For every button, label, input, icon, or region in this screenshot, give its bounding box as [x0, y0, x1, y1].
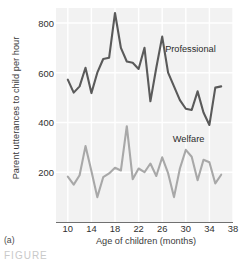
gridlines	[56, 8, 233, 222]
y-tick-labels: 200400600800	[26, 0, 54, 258]
panel-letter: (a)	[4, 235, 15, 245]
x-tick-14: 14	[86, 223, 96, 234]
x-axis-title: Age of children (months)	[56, 236, 236, 246]
x-tick-34: 34	[204, 223, 214, 234]
y-tick-200: 200	[24, 167, 54, 178]
series-label-professional: Professional	[165, 44, 216, 54]
series-label-welfare: Welfare	[173, 134, 205, 144]
y-axis-title: Parent utterances to child per hour	[11, 8, 21, 208]
y-tick-400: 400	[24, 117, 54, 128]
y-tick-800: 800	[24, 17, 54, 28]
x-tick-26: 26	[157, 223, 167, 234]
x-tick-22: 22	[133, 223, 143, 234]
x-tick-18: 18	[110, 223, 120, 234]
x-tick-10: 10	[63, 223, 73, 234]
x-tick-30: 30	[181, 223, 191, 234]
y-tick-600: 600	[24, 67, 54, 78]
x-tick-38: 38	[228, 223, 238, 234]
